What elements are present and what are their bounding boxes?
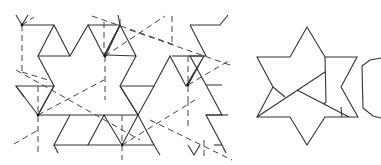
tessellation-dashed-lines bbox=[14, 16, 232, 160]
hexagram-outline bbox=[257, 27, 358, 145]
hexagram-cut-lines bbox=[257, 57, 349, 117]
tessellation-vertex-dots bbox=[21, 24, 190, 147]
partial-shape-outline bbox=[362, 58, 381, 118]
tessellation-solid-edges bbox=[16, 15, 228, 155]
partial-shape-panel bbox=[362, 58, 381, 118]
tessellation-panel bbox=[14, 15, 232, 160]
hexagram-panel bbox=[257, 27, 358, 145]
figure-canvas bbox=[0, 0, 381, 165]
